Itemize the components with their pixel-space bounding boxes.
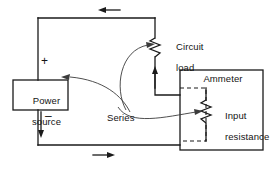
- circuit-load-label-line1: Circuit: [176, 41, 204, 52]
- circuit-load-resistor-symbol: [150, 38, 160, 57]
- leader-to-input-resistance-arrowhead: [194, 109, 203, 115]
- input-resistance-label: Input resistance: [214, 100, 269, 153]
- series-label: Series: [107, 113, 135, 124]
- current-arrow-bottom-icon: [107, 152, 115, 158]
- polarity-negative-label: –: [45, 110, 52, 122]
- leader-to-circuit-load: [120, 45, 148, 110]
- input-resistance-label-line2: resistance: [225, 131, 269, 142]
- current-arrow-load-icon: [152, 66, 158, 74]
- current-arrow-top-icon: [98, 7, 106, 13]
- polarity-positive-label: +: [41, 55, 48, 67]
- input-resistance-label-line1: Input: [225, 110, 247, 121]
- circuit-diagram-figure: Power source Circuit load Ammeter Input …: [0, 0, 274, 171]
- circuit-load-label-line2: load: [176, 62, 194, 73]
- leader-to-power-source-arrowhead: [61, 74, 70, 80]
- ammeter-label: Ammeter: [198, 74, 248, 85]
- power-source-label: Power source: [18, 85, 64, 138]
- power-source-label-line1: Power: [33, 95, 60, 106]
